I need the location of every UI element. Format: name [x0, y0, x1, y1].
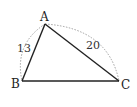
vertex-label-b: B [11, 77, 20, 91]
triangle-diagram: A B C 13 20 [0, 0, 137, 107]
vertex-label-c: C [121, 78, 130, 92]
side-ac [45, 24, 119, 81]
side-length-ab: 13 [17, 42, 31, 55]
side-length-ac: 20 [86, 39, 100, 52]
vertex-label-a: A [39, 10, 49, 24]
diagram-svg: A B C 13 20 [0, 0, 137, 107]
